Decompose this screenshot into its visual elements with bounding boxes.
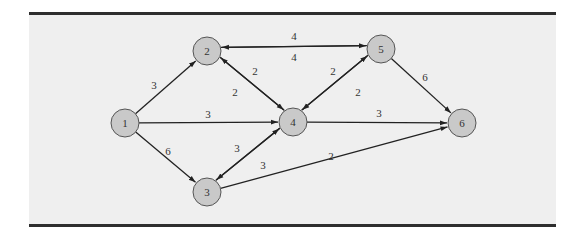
edge-weight-4-6: 3 xyxy=(376,107,382,119)
node-5: 5 xyxy=(367,35,395,63)
edge-3-to-4 xyxy=(216,129,280,181)
node-4: 4 xyxy=(279,108,307,136)
node-label: 1 xyxy=(122,117,128,129)
network-diagram: 33644222233362 123456 xyxy=(0,0,584,239)
edge-5-to-6 xyxy=(391,58,451,112)
node-2: 2 xyxy=(193,37,221,65)
edge-weight-3-4: 3 xyxy=(260,159,266,171)
node-label: 2 xyxy=(204,45,210,57)
edge-weight-3-6: 2 xyxy=(328,150,334,162)
node-3: 3 xyxy=(193,178,221,206)
edge-1-to-4 xyxy=(139,122,278,123)
edge-weight-1-3: 6 xyxy=(165,145,171,157)
node-label: 5 xyxy=(378,43,384,55)
edge-weight-1-2: 3 xyxy=(151,79,157,91)
edge-5-to-4 xyxy=(302,55,368,109)
edge-weight-2-4: 2 xyxy=(232,86,238,98)
edge-weight-1-4: 3 xyxy=(205,108,211,120)
node-6: 6 xyxy=(448,109,476,137)
edge-weight-5-2: 4 xyxy=(291,51,297,63)
edge-weight-2-5: 4 xyxy=(291,30,297,42)
edge-3-to-6 xyxy=(221,127,448,188)
edge-5-to-2 xyxy=(222,46,367,48)
node-label: 4 xyxy=(290,116,296,128)
node-label: 6 xyxy=(459,117,465,129)
node-label: 3 xyxy=(204,186,210,198)
edge-weight-4-3: 3 xyxy=(234,142,240,154)
edge-4-to-6 xyxy=(307,122,447,123)
edge-weight-4-5: 2 xyxy=(355,86,361,98)
edge-weight-4-2: 2 xyxy=(252,65,258,77)
edge-1-to-3 xyxy=(136,132,196,182)
edge-1-to-2 xyxy=(136,61,196,114)
node-1: 1 xyxy=(111,109,139,137)
edge-weight-5-6: 6 xyxy=(422,71,428,83)
edge-weight-5-4: 2 xyxy=(330,65,336,77)
